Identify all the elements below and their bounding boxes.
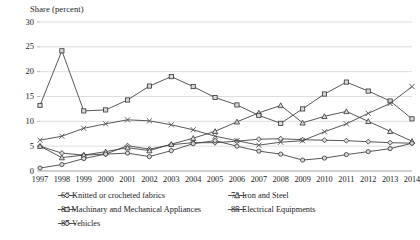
data-point-marker — [322, 156, 326, 160]
x-axis-tick-label: 2006 — [229, 175, 245, 184]
x-axis-tick-label: 2002 — [141, 175, 157, 184]
data-point-marker — [344, 138, 349, 143]
legend-marker-x — [228, 205, 246, 214]
data-point-marker — [410, 117, 414, 121]
data-point-marker — [278, 103, 283, 108]
data-point-marker — [82, 156, 86, 160]
data-point-marker — [388, 140, 393, 145]
x-axis-tick-label: 1997 — [32, 175, 48, 184]
x-axis-tick-label: 2013 — [382, 175, 398, 184]
x-axis-tick-label: 2005 — [207, 175, 223, 184]
legend-marker-triangle — [228, 191, 246, 200]
x-axis-tick-label: 2003 — [163, 175, 179, 184]
data-point-marker — [65, 207, 69, 211]
series-line — [40, 51, 412, 124]
data-point-marker — [279, 152, 283, 156]
x-axis-tick-label: 2011 — [338, 175, 354, 184]
y-axis-tick-label: 20 — [14, 66, 34, 76]
x-axis-tick-label: 2014 — [404, 175, 420, 184]
data-point-marker — [147, 154, 151, 158]
series-0 — [38, 136, 415, 157]
data-point-marker — [344, 109, 349, 114]
x-axis-tick-label: 2010 — [316, 175, 332, 184]
data-point-marker — [300, 158, 304, 162]
data-point-marker — [125, 151, 129, 155]
series-1 — [37, 103, 414, 160]
legend-marker-diamond — [58, 191, 76, 200]
data-point-marker — [300, 107, 304, 111]
data-point-marker — [82, 109, 86, 113]
data-point-marker — [409, 84, 414, 89]
x-axis-tick-label: 1999 — [76, 175, 92, 184]
data-point-marker — [257, 113, 261, 117]
x-axis-tick-label: 2007 — [251, 175, 267, 184]
series-3 — [37, 84, 414, 148]
y-axis-tick-label: 15 — [14, 91, 34, 101]
data-point-marker — [322, 138, 327, 143]
data-point-marker — [234, 119, 239, 124]
data-point-marker — [279, 121, 283, 125]
data-point-marker — [235, 103, 239, 107]
data-point-marker — [410, 141, 414, 145]
legend-item: 60-Knitted or crocheted fabrics — [58, 191, 165, 200]
data-point-marker — [322, 129, 327, 134]
x-axis-tick-label: 2001 — [119, 175, 135, 184]
data-point-marker — [388, 147, 392, 151]
data-point-marker — [235, 144, 239, 148]
data-point-marker — [366, 139, 371, 144]
data-point-marker — [125, 98, 129, 102]
y-axis-tick-label: 0 — [14, 166, 34, 176]
data-point-marker — [65, 193, 70, 198]
y-axis-tick-label: 5 — [14, 141, 34, 151]
data-point-marker — [169, 149, 173, 153]
x-axis-tick-label: 2008 — [273, 175, 289, 184]
y-axis-tick-label: 25 — [14, 41, 34, 51]
x-axis-tick-label: 2012 — [360, 175, 376, 184]
y-axis-tick-label: 30 — [14, 17, 34, 27]
data-point-marker — [65, 221, 69, 225]
data-point-marker — [388, 129, 393, 134]
data-point-marker — [191, 142, 195, 146]
x-axis-tick-label: 1998 — [54, 175, 70, 184]
x-axis-tick-label: 2000 — [97, 175, 113, 184]
legend-item-label: 60-Knitted or crocheted fabrics — [61, 191, 165, 200]
data-point-marker — [147, 84, 151, 88]
x-axis-tick-label: 2004 — [185, 175, 201, 184]
data-point-marker — [213, 95, 217, 99]
data-point-marker — [344, 153, 348, 157]
data-point-marker — [256, 137, 261, 142]
data-point-marker — [322, 92, 326, 96]
data-point-marker — [344, 121, 349, 126]
data-point-marker — [60, 49, 64, 53]
legend-item: 87-Vehicles — [58, 219, 100, 228]
data-point-marker — [212, 129, 217, 134]
data-point-marker — [366, 111, 371, 116]
series-2 — [38, 49, 414, 126]
data-point-marker — [257, 149, 261, 153]
series-line — [40, 139, 412, 155]
data-point-marker — [104, 152, 108, 156]
legend-item-label: 84 Machinary and Mechanical Appliances — [61, 205, 201, 214]
data-point-marker — [344, 80, 348, 84]
y-axis-tick-label: 10 — [14, 116, 34, 126]
data-point-marker — [191, 84, 195, 88]
data-point-marker — [366, 89, 370, 93]
legend-item: 84 Machinary and Mechanical Appliances — [58, 205, 201, 214]
series-line — [40, 105, 412, 157]
data-point-marker — [169, 75, 173, 79]
x-axis-tick-label: 2009 — [294, 175, 310, 184]
data-point-marker — [38, 103, 42, 107]
data-point-marker — [213, 139, 217, 143]
legend-item: 85-Electrical Equipments — [228, 205, 316, 214]
data-point-marker — [104, 108, 108, 112]
legend-marker-square — [58, 205, 76, 214]
legend-item: 72-Iron and Steel — [228, 191, 289, 200]
data-point-marker — [60, 162, 64, 166]
data-point-marker — [38, 166, 42, 170]
legend-marker-circle — [58, 219, 76, 228]
data-point-marker — [366, 150, 370, 154]
